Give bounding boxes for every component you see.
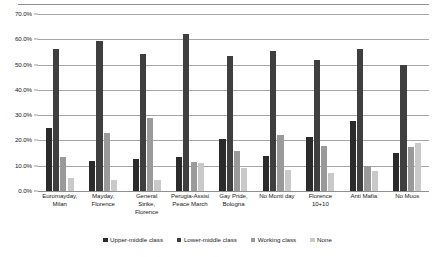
bar-group bbox=[386, 14, 429, 191]
bar bbox=[227, 56, 233, 191]
x-axis-category-line: Bologna bbox=[213, 200, 254, 208]
legend-item[interactable]: Upper-middle class bbox=[103, 237, 163, 243]
legend-item[interactable]: Lower-middle class bbox=[177, 237, 237, 243]
x-axis: Euromayday,MilanMayday,FlorenceGeneralSt… bbox=[38, 192, 429, 226]
chart-legend: Upper-middle classLower-middle classWork… bbox=[0, 237, 435, 243]
plot-area bbox=[38, 14, 429, 191]
bar bbox=[241, 168, 247, 191]
bar bbox=[408, 147, 414, 191]
bar-group bbox=[212, 14, 255, 191]
bar bbox=[321, 146, 327, 192]
x-axis-category-line: Perugia-Assisi bbox=[169, 192, 210, 200]
bar bbox=[400, 65, 406, 191]
x-axis-category-label: Euromayday,Milan bbox=[38, 192, 81, 226]
bar bbox=[263, 156, 269, 191]
bar bbox=[176, 157, 182, 191]
x-axis-category-label: GeneralStrike,Florence bbox=[125, 192, 168, 226]
bar bbox=[147, 118, 153, 191]
bar bbox=[198, 163, 204, 191]
bar bbox=[364, 166, 370, 191]
bar-chart: 0.0%10.0%20.0%30.0%40.0%50.0%60.0%70.0% … bbox=[0, 0, 435, 257]
x-axis-category-line: Peace March bbox=[169, 200, 210, 208]
bar bbox=[357, 49, 363, 191]
bar bbox=[285, 170, 291, 191]
bar bbox=[306, 137, 312, 191]
bar bbox=[277, 135, 283, 191]
x-axis-category-line: 10+10 bbox=[300, 200, 341, 208]
legend-item[interactable]: Working class bbox=[251, 237, 296, 243]
y-axis-tick-label: 20.0% bbox=[15, 137, 32, 143]
bar bbox=[140, 54, 146, 191]
y-axis-tick-label: 40.0% bbox=[15, 87, 32, 93]
bar bbox=[133, 159, 139, 191]
bar bbox=[234, 151, 240, 191]
x-axis-category-line: Anti Mafia bbox=[343, 192, 384, 200]
bar bbox=[219, 139, 225, 191]
x-axis-category-line: Florence bbox=[82, 200, 123, 208]
legend-item[interactable]: None bbox=[310, 237, 332, 243]
bar bbox=[314, 60, 320, 191]
x-axis-category-line: Milan bbox=[39, 200, 80, 208]
bar bbox=[96, 41, 102, 191]
x-axis-category-label: Anti Mafia bbox=[342, 192, 385, 226]
bar bbox=[46, 128, 52, 191]
bar-group bbox=[38, 14, 81, 191]
x-axis-category-label: No Monti day bbox=[255, 192, 298, 226]
bar bbox=[350, 121, 356, 191]
y-axis-tick-label: 10.0% bbox=[15, 163, 32, 169]
bar-groups bbox=[38, 14, 429, 191]
x-axis-category-label: Gay Pride,Bologna bbox=[212, 192, 255, 226]
x-axis-category-line: No Muos bbox=[387, 192, 428, 200]
x-axis-category-line: Euromayday, bbox=[39, 192, 80, 200]
bar-group bbox=[255, 14, 298, 191]
x-axis-category-line: Florence bbox=[300, 192, 341, 200]
legend-swatch-icon bbox=[310, 238, 314, 242]
x-axis-category-label: Perugia-AssisiPeace March bbox=[168, 192, 211, 226]
bar bbox=[393, 153, 399, 191]
x-axis-category-label: Florence10+10 bbox=[299, 192, 342, 226]
bar bbox=[183, 34, 189, 191]
legend-swatch-icon bbox=[177, 238, 181, 242]
x-axis-category-line: Strike, bbox=[126, 200, 167, 208]
bar bbox=[60, 157, 66, 191]
x-axis-category-line: Mayday, bbox=[82, 192, 123, 200]
y-axis: 0.0%10.0%20.0%30.0%40.0%50.0%60.0%70.0% bbox=[0, 0, 36, 205]
bar-group bbox=[299, 14, 342, 191]
y-axis-tick-label: 30.0% bbox=[15, 112, 32, 118]
legend-swatch-icon bbox=[251, 238, 255, 242]
bar bbox=[328, 173, 334, 191]
bar bbox=[270, 51, 276, 191]
x-axis-category-line: General bbox=[126, 192, 167, 200]
y-axis-tick-label: 70.0% bbox=[15, 11, 32, 17]
legend-swatch-icon bbox=[103, 238, 107, 242]
bar bbox=[415, 143, 421, 191]
x-axis-category-label: Mayday,Florence bbox=[81, 192, 124, 226]
legend-item-label: Upper-middle class bbox=[110, 237, 163, 243]
plot-wrapper: 0.0%10.0%20.0%30.0%40.0%50.0%60.0%70.0% bbox=[0, 0, 435, 205]
x-axis-category-line: Florence bbox=[126, 208, 167, 216]
legend-item-label: None bbox=[317, 237, 332, 243]
legend-item-label: Working class bbox=[258, 237, 296, 243]
bar-group bbox=[342, 14, 385, 191]
bar bbox=[191, 162, 197, 191]
x-axis-category-label: No Muos bbox=[386, 192, 429, 226]
bar bbox=[372, 171, 378, 191]
bar bbox=[53, 49, 59, 191]
y-axis-tick-label: 60.0% bbox=[15, 36, 32, 42]
x-axis-category-line: No Monti day bbox=[256, 192, 297, 200]
bar bbox=[111, 180, 117, 191]
chart-top-border bbox=[18, 4, 429, 5]
y-axis-tick-label: 50.0% bbox=[15, 61, 32, 67]
bar-group bbox=[125, 14, 168, 191]
bar bbox=[89, 161, 95, 191]
bar bbox=[154, 180, 160, 191]
legend-item-label: Lower-middle class bbox=[184, 237, 237, 243]
bar bbox=[68, 178, 74, 191]
bar bbox=[104, 133, 110, 191]
bar-group bbox=[81, 14, 124, 191]
y-axis-tick-label: 0.0% bbox=[18, 188, 32, 194]
bar-group bbox=[168, 14, 211, 191]
x-axis-category-line: Gay Pride, bbox=[213, 192, 254, 200]
